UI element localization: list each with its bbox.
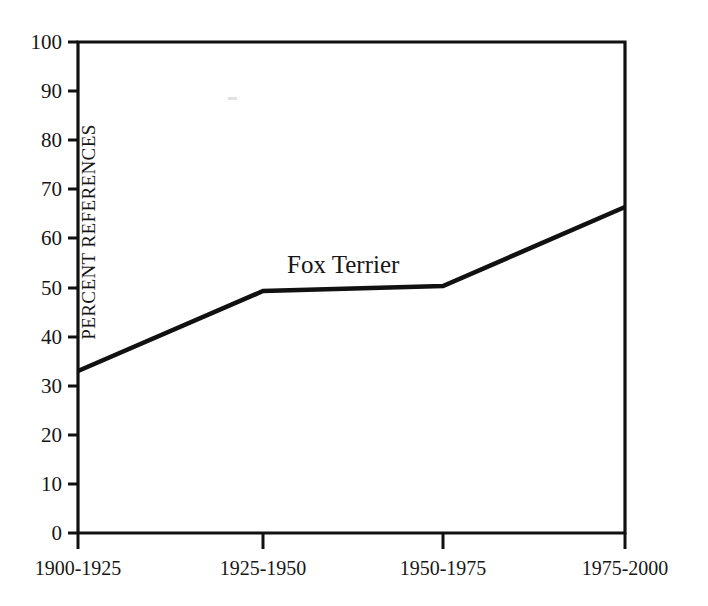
chart-plot-area: [0, 0, 708, 606]
y-tick-label: 90: [0, 81, 62, 102]
x-tick-label: 1975-2000: [535, 558, 708, 578]
series-annotation-fox-terrier: Fox Terrier: [287, 252, 399, 277]
chart-figure: 100 90 80 70 60 50 40 30 20 10 0 PERCENT…: [0, 0, 708, 606]
y-tick-label: 30: [0, 376, 62, 397]
x-tick-label: 1925-1950: [173, 558, 353, 578]
data-line-fox-terrier: [78, 207, 625, 371]
x-axis-ticks: [78, 533, 625, 549]
y-tick-label: 20: [0, 425, 62, 446]
x-tick-label: 1900-1925: [0, 558, 168, 578]
y-tick-label: 10: [0, 474, 62, 495]
y-tick-label: 0: [0, 523, 62, 544]
y-tick-label: 70: [0, 179, 62, 200]
y-tick-label: 100: [0, 32, 62, 53]
y-axis-title: PERCENT REFERENCES: [78, 82, 99, 382]
y-tick-label: 60: [0, 228, 62, 249]
y-tick-label: 40: [0, 327, 62, 348]
scan-speck: [228, 97, 237, 100]
y-tick-label: 50: [0, 278, 62, 299]
x-tick-label: 1950-1975: [353, 558, 533, 578]
y-tick-label: 80: [0, 130, 62, 151]
